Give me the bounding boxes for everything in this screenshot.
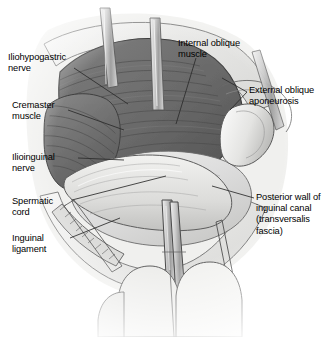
label-iliohypogastric-nerve: Iliohypogastric nerve: [8, 52, 66, 74]
label-external-oblique-aponeurosis: External oblique aponeurosis: [249, 85, 314, 107]
label-cremaster-muscle: Cremaster muscle: [12, 100, 55, 122]
anatomy-figure: Iliohypogastric nerve Cremaster muscle I…: [0, 0, 335, 337]
label-ilioinguinal-nerve: Ilioinguinal nerve: [12, 152, 55, 174]
label-inguinal-ligament: Inguinal ligament: [12, 233, 46, 255]
label-posterior-wall-inguinal-canal: Posterior wall of inguinal canal (transv…: [256, 192, 320, 237]
label-spermatic-cord: Spermatic cord: [12, 196, 53, 218]
label-internal-oblique-muscle: Internal oblique muscle: [178, 38, 240, 60]
